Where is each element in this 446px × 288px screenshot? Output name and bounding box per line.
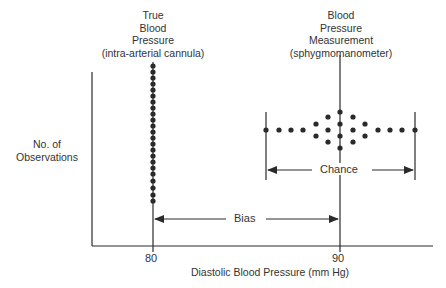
x-axis-label: Diastolic Blood Pressure (mm Hg) — [140, 266, 400, 279]
x-tick-90: 90 — [332, 252, 344, 264]
bias-label: Bias — [230, 212, 259, 224]
diagram-canvas — [0, 0, 446, 288]
chance-label: Chance — [316, 163, 362, 175]
true-bp-dots — [150, 63, 155, 203]
x-tick-80: 80 — [145, 252, 157, 264]
